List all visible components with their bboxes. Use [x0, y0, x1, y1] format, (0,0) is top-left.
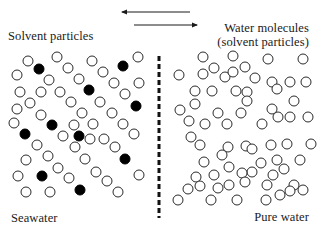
water-particle	[174, 70, 184, 80]
water-particle	[183, 184, 193, 194]
water-particle	[36, 87, 46, 97]
water-particle	[213, 108, 223, 118]
water-particle	[195, 181, 205, 191]
water-particle	[99, 134, 109, 144]
water-particle	[279, 164, 289, 174]
seawater-label: Seawater	[11, 211, 58, 225]
water-particle	[195, 140, 205, 150]
water-particle	[306, 139, 316, 149]
water-particle	[224, 180, 234, 190]
water-particle	[261, 195, 271, 205]
water-particle	[12, 70, 22, 80]
water-particle	[301, 77, 311, 87]
water-particle	[199, 157, 209, 167]
water-particle	[113, 187, 123, 197]
water-molecules-label: Water molecules	[224, 21, 309, 35]
water-particle	[285, 77, 295, 87]
water-particle	[242, 96, 252, 106]
water-particle	[175, 105, 185, 115]
water-particle	[32, 140, 42, 150]
water-particle	[87, 56, 97, 66]
water-particle	[263, 54, 273, 64]
water-particle	[102, 176, 112, 186]
water-particle	[275, 190, 285, 200]
water-particle	[295, 155, 305, 165]
water-particle	[66, 97, 76, 107]
water-particle	[273, 112, 283, 122]
solute-particle	[120, 154, 130, 164]
water-particle	[289, 96, 299, 106]
water-particle	[247, 144, 257, 154]
water-particle	[85, 134, 95, 144]
water-particle	[190, 86, 200, 96]
water-particle	[74, 74, 84, 84]
water-particle	[257, 119, 267, 129]
solute-particle	[74, 131, 84, 141]
water-particle	[95, 97, 105, 107]
water-particle	[129, 129, 139, 139]
seawater-particles	[9, 52, 144, 197]
water-particle	[44, 75, 54, 85]
solute-particle	[47, 120, 57, 130]
water-particle	[282, 139, 292, 149]
water-particle	[69, 120, 79, 130]
solute-particle	[34, 64, 44, 74]
water-particle	[134, 170, 144, 180]
water-particle	[23, 56, 33, 66]
water-particle	[52, 52, 62, 62]
pure-water-label: Pure water	[254, 210, 309, 224]
water-particle	[256, 158, 266, 168]
water-particle	[25, 98, 35, 108]
solute-particle	[75, 185, 85, 195]
water-particle	[134, 78, 144, 88]
water-particle	[186, 132, 196, 142]
water-particle	[55, 87, 65, 97]
water-particle	[109, 78, 119, 88]
water-particle	[268, 170, 278, 180]
water-particle	[107, 108, 117, 118]
water-particle	[110, 142, 120, 152]
water-particle	[13, 171, 23, 181]
water-particle	[272, 84, 282, 94]
water-particle	[272, 155, 282, 165]
water-particle	[77, 108, 87, 118]
water-particle	[198, 52, 208, 62]
water-particle	[70, 142, 80, 152]
water-particle	[240, 62, 250, 72]
water-particle	[222, 119, 232, 129]
water-particle	[21, 187, 31, 197]
water-particle	[88, 119, 98, 129]
water-particle	[184, 116, 194, 126]
water-particle	[21, 155, 31, 165]
water-particle	[120, 89, 130, 99]
water-particle	[224, 162, 234, 172]
water-particle	[15, 87, 25, 97]
water-particle	[133, 52, 143, 62]
water-particle	[213, 183, 223, 193]
water-particle	[209, 170, 219, 180]
water-particle	[236, 108, 246, 118]
water-particle	[58, 131, 68, 141]
water-particle	[198, 69, 208, 79]
water-particle	[209, 63, 219, 73]
water-particle	[43, 151, 53, 161]
water-particle	[118, 119, 128, 129]
water-particle	[200, 119, 210, 129]
water-particle	[173, 195, 183, 205]
water-particle	[266, 140, 276, 150]
solute-particle	[84, 85, 94, 95]
water-particle	[298, 54, 308, 64]
water-particle	[91, 167, 101, 177]
water-particle	[240, 177, 250, 187]
water-particle	[53, 163, 63, 173]
water-particle	[64, 173, 74, 183]
pure-water-particles	[173, 51, 316, 205]
water-particle	[63, 63, 73, 73]
water-particle	[232, 195, 242, 205]
water-particle	[12, 104, 22, 114]
water-particle	[9, 118, 19, 128]
solute-particle	[118, 61, 128, 71]
water-particle	[217, 150, 227, 160]
water-particle	[237, 168, 247, 178]
water-particle	[262, 180, 272, 190]
